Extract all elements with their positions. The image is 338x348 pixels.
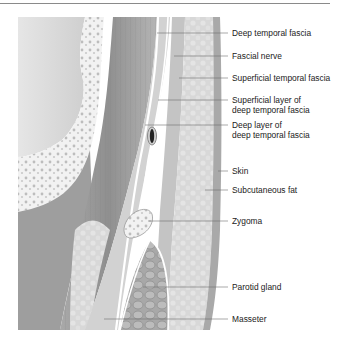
anatomy-illustration bbox=[0, 0, 338, 348]
label-deep-temporal-fascia: Deep temporal fascia bbox=[232, 28, 311, 38]
label-zygoma: Zygoma bbox=[232, 216, 262, 226]
label-superficial-layer-line2: deep temporal fascia bbox=[232, 105, 310, 115]
label-superficial-temporal-fascia: Superficial temporal fascia bbox=[232, 73, 330, 83]
label-masseter: Masseter bbox=[232, 314, 266, 324]
label-superficial-layer-line1: Superficial layer of bbox=[232, 95, 301, 105]
label-skin: Skin bbox=[232, 166, 248, 176]
label-deep-layer-line1: Deep layer of bbox=[232, 120, 282, 130]
label-subcutaneous-fat: Subcutaneous fat bbox=[232, 185, 297, 195]
label-fascial-nerve: Fascial nerve bbox=[232, 51, 282, 61]
label-parotid-gland: Parotid gland bbox=[232, 282, 281, 292]
label-deep-layer-line2: deep temporal fascia bbox=[232, 130, 310, 140]
